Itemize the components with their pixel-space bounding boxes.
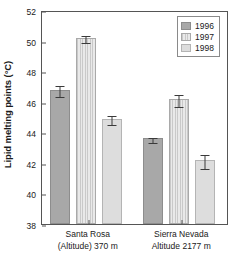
error-cap-lower — [55, 97, 64, 98]
x-group-label-line2: Altitude 2177 m — [135, 241, 229, 253]
y-tick-label: 44 — [27, 129, 36, 139]
legend-row-1998: 1998 — [181, 42, 214, 53]
error-bar-1997-group2 — [179, 95, 180, 107]
bar-1998-group1 — [102, 119, 122, 224]
y-tick-label: 50 — [27, 38, 36, 48]
error-cap-lower — [175, 107, 184, 108]
y-tick-label: 46 — [27, 99, 36, 109]
x-tick-mark — [182, 220, 183, 224]
error-cap-lower — [107, 125, 116, 126]
y-tick-mark — [42, 103, 46, 104]
x-group-label-1: Santa Rosa(Altitude) 370 m — [41, 229, 135, 252]
bar-1997-group1 — [76, 38, 96, 224]
legend-swatch-1997 — [181, 33, 191, 41]
legend-label-1996: 1996 — [195, 21, 214, 31]
y-tick-mark — [42, 164, 46, 165]
error-cap-upper — [55, 86, 64, 87]
legend-label-1997: 1997 — [195, 32, 214, 42]
chart-legend: 199619971998 — [177, 16, 220, 57]
y-tick-label: 38 — [27, 221, 36, 231]
error-bar-1998-group1 — [111, 116, 112, 125]
error-bar-1997-group1 — [85, 36, 86, 44]
error-cap-upper — [149, 138, 158, 139]
y-tick-mark — [42, 134, 46, 135]
x-group-label-2: Sierra NevadaAltitude 2177 m — [135, 229, 229, 252]
bar-1996-group2 — [143, 138, 163, 224]
y-tick-mark — [42, 42, 46, 43]
x-group-label-line1: Sierra Nevada — [154, 229, 208, 239]
y-tick-label: 40 — [27, 190, 36, 200]
legend-row-1997: 1997 — [181, 31, 214, 42]
legend-label-1998: 1998 — [195, 43, 214, 53]
error-cap-lower — [149, 143, 158, 144]
legend-swatch-1996 — [181, 22, 191, 30]
legend-row-1996: 1996 — [181, 20, 214, 31]
error-bar-1998-group2 — [205, 155, 206, 169]
y-tick-label: 52 — [27, 7, 36, 17]
y-axis-title: Lipid melting points (°C) — [0, 0, 16, 228]
error-cap-lower — [81, 43, 90, 44]
y-tick-label: 42 — [27, 160, 36, 170]
error-cap-upper — [201, 155, 210, 156]
lipid-melting-points-bar-chart: Lipid melting points (°C) 38404244464850… — [0, 0, 235, 257]
legend-swatch-1998 — [181, 44, 191, 52]
x-group-label-line1: Santa Rosa — [66, 229, 110, 239]
y-axis-title-text: Lipid melting points (°C) — [3, 60, 14, 167]
x-group-label-line2: (Altitude) 370 m — [41, 241, 135, 253]
y-tick-mark — [42, 73, 46, 74]
error-bar-1996-group1 — [59, 86, 60, 97]
error-cap-upper — [175, 95, 184, 96]
x-tick-mark — [88, 220, 89, 224]
error-cap-lower — [201, 169, 210, 170]
error-cap-upper — [107, 116, 116, 117]
error-cap-upper — [81, 36, 90, 37]
y-tick-label: 48 — [27, 68, 36, 78]
y-tick-mark — [42, 195, 46, 196]
y-tick-mark — [42, 226, 46, 227]
bar-1997-group2 — [169, 99, 189, 224]
y-tick-mark — [42, 12, 46, 13]
bar-1996-group1 — [50, 90, 70, 225]
